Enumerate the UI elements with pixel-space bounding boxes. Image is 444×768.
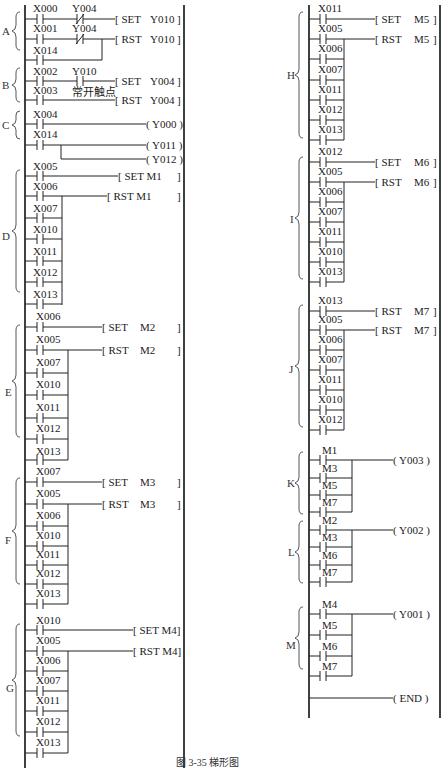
contact-label: X012: [318, 413, 342, 425]
section-label: G: [6, 682, 14, 694]
contact-label: M2: [322, 514, 337, 526]
contact-label: X012: [36, 422, 60, 434]
contact-label: X006: [36, 654, 61, 666]
section-e: E X006 X005 X007 X010 X011 X012 X013 [ S…: [5, 310, 181, 465]
output-coil: ( Y002 ): [393, 524, 430, 537]
end-coil: ( END ): [393, 692, 429, 705]
svg-text:]: ]: [433, 324, 437, 336]
contact-label: X006: [318, 333, 343, 345]
contact-label: X005: [36, 634, 61, 646]
coil-device: M5: [414, 33, 430, 45]
contact-label: X007: [33, 202, 58, 214]
contact-label: X010: [318, 245, 343, 257]
contact-label: M7: [322, 496, 338, 508]
svg-text:]: ]: [177, 170, 181, 182]
contact-label: Y004: [72, 2, 97, 14]
contact-label: M5: [322, 619, 338, 631]
section-f: F X007 X005 X006 X010 X011 X012 X013 [ S…: [5, 465, 181, 609]
contact-label: X007: [36, 356, 61, 368]
contact-label: M7: [322, 566, 338, 578]
contact-label: X012: [36, 567, 60, 579]
section-d: D X005 X006 X007 X010 X011 X012 X013 [ S…: [2, 160, 181, 309]
section-label: E: [5, 386, 12, 398]
svg-text:]: ]: [177, 94, 181, 106]
section-label: A: [2, 25, 10, 37]
contact-label: X012: [318, 145, 342, 157]
coil-label: [ SET: [102, 321, 128, 333]
section-a: A X000 Y004 [ SET Y010 ] X001 Y004 [ RST…: [2, 2, 181, 65]
contact-label: X011: [318, 225, 342, 237]
contact-label: X007: [318, 353, 343, 365]
section-m: M M4 M5 M6 M7 ( Y001 ): [286, 598, 430, 681]
coil-device: Y004: [150, 75, 175, 87]
contact-label: X013: [318, 294, 343, 306]
svg-text:]: ]: [177, 75, 181, 87]
contact-label: X010: [36, 614, 61, 626]
contact-label: X011: [318, 83, 342, 95]
contact-label: Y010: [72, 65, 97, 77]
coil-label: [ RST: [375, 33, 402, 45]
svg-text:]: ]: [433, 176, 437, 188]
contact-label: X013: [36, 736, 61, 748]
coil-device: M3: [140, 498, 156, 510]
contact-label: X014: [33, 44, 58, 56]
contact-label: Y004: [72, 22, 97, 34]
coil-device: M3: [140, 476, 156, 488]
contact-label: X011: [33, 245, 57, 257]
coil-label: [ RST: [102, 344, 129, 356]
output-coil: ( Y000 ): [146, 118, 183, 131]
output-coil: ( Y012 ): [146, 153, 183, 166]
svg-text:]: ]: [177, 33, 181, 45]
contact-label: X001: [33, 22, 57, 34]
section-label: I: [290, 213, 294, 225]
contact-label: X006: [318, 185, 343, 197]
contact-label: X007: [36, 674, 61, 686]
contact-label: X013: [36, 445, 61, 457]
svg-text:]: ]: [177, 190, 181, 202]
svg-text:]: ]: [433, 13, 437, 25]
contact-label: X006: [33, 180, 58, 192]
section-label: J: [289, 363, 294, 375]
svg-text:]: ]: [177, 13, 181, 25]
contact-label: X011: [36, 401, 60, 413]
section-label: H: [287, 69, 295, 81]
coil-label: [ RST: [115, 94, 142, 106]
contact-label: X005: [318, 22, 343, 34]
contact-label: X013: [36, 587, 61, 599]
contact-label: X010: [36, 378, 61, 390]
section-c: C X004 ( Y000 ) X014 ( Y011 ) ( Y012 ): [2, 108, 183, 166]
contact-label: M1: [322, 444, 337, 456]
contact-label: X003: [33, 84, 58, 96]
coil-device: M7: [414, 305, 430, 317]
contact-label: X012: [318, 103, 342, 115]
svg-text:]: ]: [433, 156, 437, 168]
contact-label: M3: [322, 462, 338, 474]
coil-label: [ RST: [115, 33, 142, 45]
contact-label: X011: [36, 548, 60, 560]
contact-label: X005: [36, 487, 61, 499]
ladder-diagram: A X000 Y004 [ SET Y010 ] X001 Y004 [ RST…: [0, 0, 444, 768]
contact-label: X010: [36, 529, 61, 541]
coil-label: [ SET: [115, 75, 141, 87]
contact-label: M7: [322, 660, 338, 672]
section-label: C: [2, 119, 9, 131]
coil-device: Y004: [150, 94, 175, 106]
section-label: L: [288, 546, 295, 558]
figure-caption: 图 3-35 梯形图: [176, 756, 239, 768]
section-label: M: [286, 639, 296, 651]
coil-device: M2: [140, 344, 155, 356]
coil-label: [ RST: [102, 498, 129, 510]
svg-text:]: ]: [177, 476, 181, 488]
coil-label: [ RST M1: [107, 190, 151, 202]
section-g: G X010 X005 X006 X007 X011 X012 X013 [ S…: [6, 614, 181, 758]
svg-text:]: ]: [433, 305, 437, 317]
end-rung: ( END ): [309, 692, 429, 705]
contact-label: X014: [33, 128, 58, 140]
contact-label: M5: [322, 479, 338, 491]
coil-label: [ SET: [375, 13, 401, 25]
contact-label: X002: [33, 65, 57, 77]
coil-device: M6: [414, 156, 430, 168]
section-j: J X013 X005 X006 X007 X011 X010 X012 [ R…: [289, 294, 437, 435]
contact-label: X013: [318, 265, 343, 277]
section-label: F: [5, 534, 11, 546]
